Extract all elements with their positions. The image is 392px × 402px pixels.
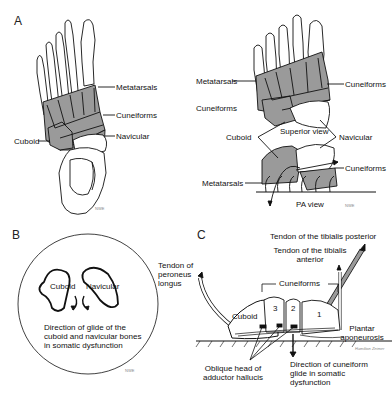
signature-c: Hamilton Zeimer: [355, 346, 384, 351]
signature-b: NWE: [125, 368, 134, 373]
label-oblique-head: Oblique head of adductor hallucis: [198, 364, 268, 382]
signature-a-right: NWE: [345, 203, 354, 208]
label-navicular-left: Navicular: [116, 132, 149, 141]
label-cuneiforms-right-left: Cuneiforms: [196, 104, 237, 113]
label-cuneiforms-bottom: Cuneiforms: [345, 164, 386, 173]
panel-b-drawing: [18, 234, 158, 374]
label-cuboid-c: Cuboid: [232, 312, 257, 321]
label-cuneiform-1: 1: [317, 310, 321, 319]
label-superior-view: Superior view: [280, 127, 328, 136]
label-pa-view: PA view: [296, 200, 324, 209]
label-cuneiform-3: 3: [273, 304, 277, 313]
panel-letter-c: C: [197, 228, 206, 242]
label-cuneiforms-c: Cuneiforms: [279, 279, 320, 288]
right-foot-superior-drawing: [254, 15, 376, 206]
label-navicular-right: Navicular: [339, 133, 372, 142]
label-cuboid-left: Cuboid: [14, 137, 39, 146]
label-navicular-b: Navicular: [86, 282, 119, 291]
label-cuneiforms-right: Cuneiforms: [345, 80, 386, 89]
label-tendon-peroneus-longus: Tendon of peroneus longus: [158, 261, 216, 288]
label-cuneiforms-left: Cuneiforms: [116, 111, 157, 120]
label-tendon-tibialis-posterior: Tendon of the tibialis posterior: [270, 232, 376, 241]
label-tendon-tibialis-anterior: Tendon of the tibialis anterior: [270, 246, 350, 264]
label-cuboid-b: Cuboid: [50, 282, 75, 291]
label-cuneiform-2: 2: [291, 304, 295, 313]
label-cuboid-right: Cuboid: [226, 133, 251, 142]
caption-b: Direction of glide of the cuboid and nav…: [44, 323, 144, 350]
label-metatarsals-left: Metatarsals: [116, 83, 157, 92]
panel-letter-b: B: [12, 228, 20, 242]
panel-letter-a: A: [14, 14, 22, 28]
label-metatarsals-right-top: Metatarsals: [196, 77, 237, 86]
label-metatarsals-bottom: Metatarsals: [202, 179, 243, 188]
label-direction-cuneiform-glide: Direction of cuneiform glide in somatic …: [290, 360, 382, 387]
anatomy-figure: A B C Metatarsals Cuneiforms Navicular C…: [0, 0, 392, 402]
left-foot-dorsal-drawing: [37, 20, 107, 215]
signature-a-left: NWE: [95, 206, 104, 211]
label-plantar-aponeurosis: Plantar aponeurosis: [333, 324, 391, 342]
